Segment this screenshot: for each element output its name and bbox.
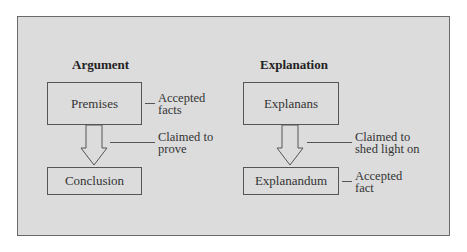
down-arrow-icon xyxy=(277,125,303,165)
leader-line xyxy=(307,142,352,143)
leader-line xyxy=(110,142,155,143)
conclusion-label: Conclusion xyxy=(65,173,124,189)
explanation-title: Explanation xyxy=(260,57,328,73)
premises-box: Premises xyxy=(47,82,142,125)
argument-title: Argument xyxy=(72,57,129,73)
premises-label: Premises xyxy=(71,96,118,112)
shed-light-note: Claimed to shed light on xyxy=(355,131,420,155)
explanandum-box: Explanandum xyxy=(243,167,339,195)
leader-line xyxy=(342,181,352,182)
leader-line xyxy=(145,103,155,104)
explanans-label: Explanans xyxy=(264,96,318,112)
arrows-layer xyxy=(0,0,467,252)
accepted-fact-note: Accepted fact xyxy=(355,170,402,194)
conclusion-box: Conclusion xyxy=(47,167,142,195)
explanandum-label: Explanandum xyxy=(255,173,327,189)
accepted-facts-note: Accepted facts xyxy=(158,92,205,116)
down-arrow-icon xyxy=(81,125,107,165)
claimed-to-prove-note: Claimed to prove xyxy=(158,131,213,155)
explanans-box: Explanans xyxy=(243,82,339,125)
